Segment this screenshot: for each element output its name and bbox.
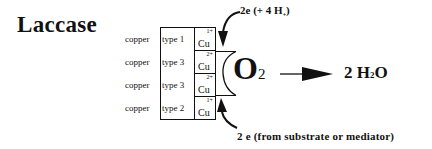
electron-input-bottom-label: 2 e (from substrate or mediator) [237,130,394,142]
oxidation-state: 1+ [207,28,213,34]
oxidation-state: 1+ [207,97,213,103]
top-label-close: ) [286,4,290,16]
oxygen-subscript: 2 [258,66,266,82]
label-type: type 1 [162,34,184,44]
copper-symbol: Cu [198,61,210,72]
copper-cell: 1+ Cu [195,28,215,50]
arrow-right-icon [280,67,333,81]
copper-symbol: Cu [198,84,210,95]
label-prefix: copper [125,103,150,113]
oxygen-substrate: O2 [233,52,265,84]
label-prefix: copper [125,57,150,67]
curved-arrow-down-icon [218,12,240,47]
label-type: type 2 [162,103,184,113]
electron-input-top-label: 2e (+ 4 H+) [240,4,290,18]
oxidation-state: 2+ [207,51,213,57]
label-prefix: copper [125,34,150,44]
copper-cell: 1+ Cu [195,97,215,119]
oxidation-state: 2+ [207,74,213,80]
label-prefix: copper [125,80,150,90]
oxygen-symbol: O [374,63,387,82]
copper-symbol: Cu [198,38,210,49]
curved-arrow-up-icon [217,98,237,128]
copper-cell: 2+ Cu [195,74,215,96]
top-label-text: 2e (+ 4 H [240,4,283,16]
label-type: type 3 [162,57,184,67]
copper-cell: 2+ Cu [195,51,215,73]
water-product: 2 H2O [344,63,388,83]
oxygen-symbol: O [233,50,258,86]
label-type: type 3 [162,80,184,90]
copper-symbol: Cu [198,107,210,118]
hydrogen-symbol: H [357,63,370,82]
product-coefficient: 2 [344,63,353,82]
